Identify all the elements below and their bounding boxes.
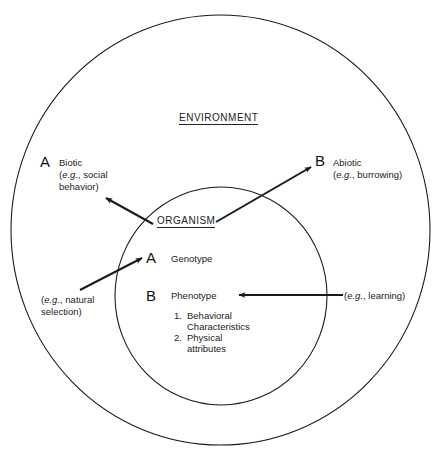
biotic-title: Biotic (59, 157, 82, 169)
biotic-example-cont: behavior) (59, 181, 99, 193)
abiotic-title: Abiotic (333, 157, 362, 169)
diagram-canvas (0, 0, 435, 455)
natural-selection-example: (e.g., natural (41, 294, 94, 306)
genotype-title: Genotype (171, 253, 212, 265)
phenotype-letter: B (146, 288, 156, 304)
phenotype-item-2-num: 2. (174, 332, 182, 344)
phenotype-item-1-num: 1. (174, 310, 182, 322)
natural-selection-example-cont: selection) (41, 306, 82, 318)
arrow-to-abiotic (216, 167, 311, 222)
organism-label: ORGANISM (157, 215, 215, 227)
biotic-letter: A (40, 154, 50, 170)
environment-circle (11, 15, 430, 445)
phenotype-item-2-line2: attributes (187, 343, 226, 355)
genotype-letter: A (146, 250, 156, 266)
abiotic-example: (e.g., burrowing) (333, 169, 402, 181)
abiotic-letter: B (315, 153, 325, 169)
learning-example: (e.g., learning) (344, 290, 405, 302)
biotic-example: (e.g., social (59, 169, 108, 181)
arrow-to-biotic (106, 198, 153, 224)
arrow-to-genotype (80, 258, 142, 290)
phenotype-title: Phenotype (171, 290, 216, 302)
environment-label: ENVIRONMENT (179, 112, 258, 124)
